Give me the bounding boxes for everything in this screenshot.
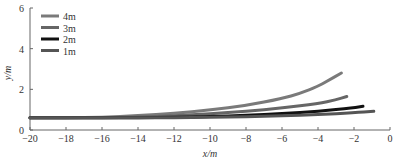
y-tick-label: 0	[19, 125, 24, 136]
x-tick-label: −4	[313, 133, 324, 144]
y-tick-label: 4	[19, 44, 24, 55]
y-tick-label: 2	[19, 84, 24, 95]
y-axis-label: y/m	[2, 66, 13, 81]
legend-label: 4m	[63, 11, 76, 22]
legend-label: 1m	[63, 46, 76, 57]
legend: 4m3m2m1m	[41, 11, 76, 57]
legend-label: 3m	[63, 23, 76, 34]
x-tick-label: −8	[241, 133, 252, 144]
x-tick-label: 0	[388, 133, 393, 144]
x-tick-label: −18	[58, 133, 74, 144]
x-tick-label: −14	[130, 133, 146, 144]
series-line-4m	[30, 73, 341, 118]
line-chart: −20−18−16−14−12−10−8−6−4−200246 4m3m2m1m…	[0, 0, 395, 166]
x-tick-label: −12	[166, 133, 182, 144]
x-tick-label: −10	[202, 133, 218, 144]
x-tick-label: −2	[349, 133, 360, 144]
x-tick-label: −6	[277, 133, 288, 144]
x-tick-label: −16	[94, 133, 110, 144]
x-tick-label: −20	[22, 133, 38, 144]
x-axis-label: x/m	[202, 148, 217, 159]
y-tick-label: 6	[19, 3, 24, 14]
legend-label: 2m	[63, 34, 76, 45]
series-group	[30, 73, 374, 118]
